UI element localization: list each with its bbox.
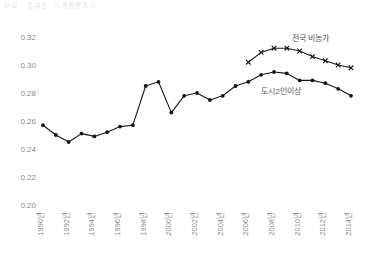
y-tick-label: 0.20: [20, 201, 36, 210]
data-point-marker: [246, 60, 251, 65]
data-point-marker: [41, 123, 45, 127]
x-tick-label: 2000년: [163, 212, 173, 236]
y-tick-label: 0.22: [20, 173, 36, 182]
x-tick-label: 2006년: [240, 212, 250, 236]
data-point-marker: [182, 94, 186, 98]
data-point-marker: [323, 81, 327, 85]
data-point-marker: [80, 132, 84, 136]
series-lines-group: [43, 48, 351, 142]
x-tick-label: 2008년: [266, 212, 276, 236]
data-point-marker: [118, 125, 122, 129]
series-markers-group: [41, 46, 353, 144]
x-tick-label: 2010년: [292, 212, 302, 236]
data-point-marker: [144, 84, 148, 88]
x-tick-label: 1992년: [61, 212, 71, 236]
x-tick-label: 2002년: [189, 212, 199, 236]
x-axis-tick-labels: 1990년1992년1994년1996년1998년2000년2002년2004년…: [35, 212, 353, 236]
data-point-marker: [131, 123, 135, 127]
data-point-marker: [272, 70, 276, 74]
y-axis-tick-labels: 0.200.220.240.260.280.300.32: [20, 33, 36, 210]
x-tick-label: 1996년: [112, 212, 122, 236]
series-label-2: 전국 비농가: [292, 33, 330, 43]
series-label-1: 도시2인이상: [261, 86, 301, 96]
data-point-marker: [169, 111, 173, 115]
data-point-marker: [298, 79, 302, 83]
data-point-marker: [195, 91, 199, 95]
data-point-marker: [105, 130, 109, 134]
data-point-marker: [336, 87, 340, 91]
chart-container: 자료 : 통계청, 가계동향조사 0.200.220.240.260.280.3…: [0, 0, 366, 255]
data-point-marker: [349, 94, 353, 98]
data-point-marker: [54, 133, 58, 137]
x-tick-label: 1994년: [86, 212, 96, 236]
series-annotation-labels: 도시2인이상전국 비농가: [261, 33, 330, 96]
x-tick-label: 1998년: [138, 212, 148, 236]
y-tick-label: 0.24: [20, 145, 36, 154]
data-point-marker: [311, 79, 315, 83]
y-tick-label: 0.32: [20, 33, 36, 42]
data-point-marker: [208, 98, 212, 102]
data-point-marker: [157, 80, 161, 84]
x-tick-label: 2012년: [317, 212, 327, 236]
y-tick-label: 0.26: [20, 117, 36, 126]
x-tick-label: 1990년: [35, 212, 45, 236]
x-tick-label: 2004년: [215, 212, 225, 236]
data-point-marker: [259, 73, 263, 77]
y-tick-label: 0.28: [20, 89, 36, 98]
data-point-marker: [285, 72, 289, 76]
data-point-marker: [221, 94, 225, 98]
data-point-marker: [234, 84, 238, 88]
x-tick-label: 2014년: [343, 212, 353, 236]
data-point-marker: [67, 140, 71, 144]
y-tick-label: 0.30: [20, 61, 36, 70]
data-point-marker: [246, 80, 250, 84]
data-point-marker: [92, 135, 96, 139]
series-line-1: [43, 72, 351, 142]
line-chart-plot: 0.200.220.240.260.280.300.32 1990년1992년1…: [0, 0, 366, 255]
